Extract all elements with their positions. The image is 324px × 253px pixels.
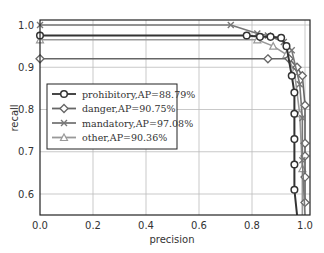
legend: prohibitory,AP=88.79%danger,AP=90.75%man…: [47, 84, 195, 149]
x-tick-label: 0.4: [138, 220, 154, 231]
legend-entry: mandatory,AP=97.08%: [82, 118, 193, 129]
pr-chart: 0.00.20.40.60.81.0 0.60.70.80.91.0 preci…: [0, 0, 324, 253]
x-tick-label: 0.8: [244, 220, 260, 231]
y-tick-label: 0.9: [18, 62, 34, 73]
legend-entry: danger,AP=90.75%: [82, 103, 176, 114]
y-tick-label: 1.0: [18, 20, 34, 31]
y-axis-label: recall: [9, 104, 20, 131]
legend-entry: prohibitory,AP=88.79%: [82, 89, 195, 100]
x-tick-label: 0.2: [85, 220, 101, 231]
x-tick-label: 1.0: [297, 220, 313, 231]
legend-entry: other,AP=90.36%: [82, 132, 167, 143]
x-tick-label: 0.6: [191, 220, 207, 231]
x-axis-label: precision: [149, 234, 194, 245]
y-tick-label: 0.6: [18, 189, 34, 200]
x-tick-label: 0.0: [32, 220, 48, 231]
y-tick-label: 0.8: [18, 104, 34, 115]
y-tick-labels: 0.60.70.80.91.0: [18, 20, 34, 200]
y-tick-label: 0.7: [18, 146, 34, 157]
x-tick-labels: 0.00.20.40.60.81.0: [32, 220, 313, 231]
